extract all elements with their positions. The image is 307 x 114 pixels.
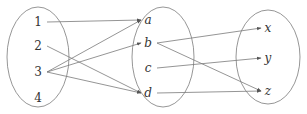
arrow-d-to-z [157,91,261,93]
arrow-b-to-z [157,43,261,91]
element-label-y: y [264,51,272,65]
element-label-2: 2 [34,39,42,53]
element-label-x: x [265,21,272,35]
arrow-b-to-x [157,28,261,43]
element-label-z: z [264,84,272,98]
arrow-3-to-a [47,20,141,72]
arrow-1-to-a [47,20,141,22]
element-label-d: d [144,86,152,100]
arrow-c-to-y [157,58,261,68]
element-label-4: 4 [34,91,42,105]
element-label-a: a [144,13,151,27]
element-label-b: b [144,36,152,50]
arrow-3-to-b [47,43,141,72]
element-label-c: c [145,61,152,75]
element-label-1: 1 [34,15,42,29]
mapping-diagram: 1234abcdxyz [0,0,307,114]
mapping-arrows [47,20,261,93]
set-b-ellipse [132,7,194,107]
arrow-2-to-d [47,46,141,93]
element-label-3: 3 [34,65,42,79]
